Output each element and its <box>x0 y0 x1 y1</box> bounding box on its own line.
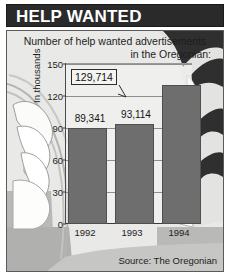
chart-panel: Number of help wanted advertisements in … <box>6 30 224 272</box>
infographic-root: HELP WANTED <box>0 0 230 277</box>
bar-1992[interactable] <box>68 128 107 224</box>
x-axis-label-1992: 1992 <box>59 227 111 238</box>
bar-value-callout-1994: 129,714 <box>71 69 117 85</box>
source-note: Source: The Oregonian <box>118 255 217 266</box>
y-axis-label-90: 90 <box>52 123 63 134</box>
x-axis-label-1994: 1994 <box>153 227 205 238</box>
plot-wrapper: In thousands 150 120 90 60 <box>7 31 223 271</box>
callout-leader-line <box>117 85 137 99</box>
y-axis-title: In thousands <box>31 49 42 103</box>
y-tickmark-150 <box>63 64 66 65</box>
y-axis-label-150: 150 <box>47 59 63 70</box>
page-title: HELP WANTED <box>16 7 142 27</box>
bar-1994[interactable] <box>162 85 201 224</box>
y-axis-label-120: 120 <box>47 91 63 102</box>
gridline-150 <box>66 64 192 65</box>
y-tickmark-120 <box>63 96 66 97</box>
x-axis-label-1993: 1993 <box>106 227 158 238</box>
y-axis-label-30: 30 <box>52 187 63 198</box>
bar-1993[interactable] <box>115 124 154 224</box>
y-tickmark-30 <box>63 192 66 193</box>
y-tickmark-60 <box>63 160 66 161</box>
bar-value-label-1993: 93,114 <box>108 109 164 120</box>
header-bar: HELP WANTED <box>6 4 224 27</box>
y-axis-label-60: 60 <box>52 155 63 166</box>
y-tickmark-90 <box>63 128 66 129</box>
y-tickmark-0 <box>63 224 66 225</box>
